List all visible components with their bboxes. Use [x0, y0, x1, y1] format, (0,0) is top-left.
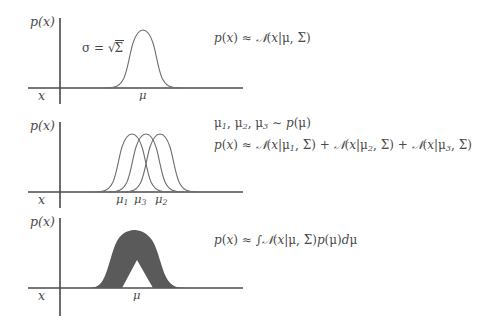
equation-panel-1: p(x) ≈ 𝒩(x|μ, Σ)	[214, 32, 311, 44]
panel-3-plot	[0, 208, 478, 324]
equation-panel-2-prior: μ1, μ2, μ3 ∼ p(μ)	[214, 117, 311, 130]
panel-single-gaussian: p(x) x μ σ = √Σ p(x) ≈ 𝒩(x|μ, Σ)	[0, 0, 478, 104]
bayesian-marginalization-figure: p(x) x μ σ = √Σ p(x) ≈ 𝒩(x|μ, Σ) p(x) x …	[0, 0, 478, 324]
marginal-density-fill	[87, 230, 186, 288]
y-axis-label: p(x)	[30, 120, 55, 133]
x-tick-label-mu2: μ2	[155, 194, 167, 207]
sigma-annotation: σ = √Σ	[82, 42, 124, 54]
y-axis-label: p(x)	[30, 216, 55, 229]
x-axis-label: x	[38, 290, 45, 303]
x-axis-label: x	[38, 90, 45, 103]
equation-panel-3: p(x) ≈ ∫𝒩(x|μ, Σ)p(μ)dμ	[214, 234, 357, 246]
y-axis-label: p(x)	[30, 16, 55, 29]
x-tick-label-mu: μ	[139, 90, 146, 102]
panel-gaussian-mixture: p(x) x μ1 μ3 μ2 μ1, μ2, μ3 ∼ p(μ) p(x) ≈…	[0, 104, 478, 208]
x-tick-label-mu: μ	[133, 290, 140, 302]
equation-panel-2-mixture: p(x) ≈ 𝒩(x|μ1, Σ) + 𝒩(x|μ2, Σ) + 𝒩(x|μ3,…	[214, 139, 472, 152]
panel-marginal-density: p(x) x μ p(x) ≈ ∫𝒩(x|μ, Σ)p(μ)dμ	[0, 208, 478, 324]
gaussian-main-curve	[105, 30, 181, 88]
panel-1-plot	[0, 0, 478, 104]
x-tick-label-mu1: μ1	[116, 194, 128, 207]
x-axis-label: x	[38, 194, 45, 207]
x-tick-label-mu3: μ3	[134, 194, 146, 207]
